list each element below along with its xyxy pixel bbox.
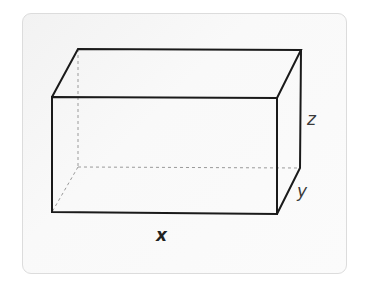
rectangular-prism-diagram: x z y [0, 0, 366, 289]
hidden-edge-back-bottom [78, 167, 300, 168]
visible-edges [52, 49, 301, 214]
front-face [52, 97, 277, 214]
hidden-edge-bottom-left-depth [52, 167, 78, 212]
label-x: x [155, 225, 168, 245]
label-z: z [306, 109, 317, 129]
label-y: y [296, 181, 308, 201]
top-face-edges [52, 49, 301, 98]
hidden-edges [52, 49, 300, 212]
